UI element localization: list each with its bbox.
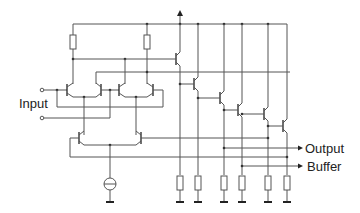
resistor-r1	[70, 35, 76, 49]
supply-rail	[73, 10, 287, 25]
input-stage	[40, 83, 163, 135]
input-terminal-1	[40, 88, 44, 92]
supply-arrow-icon	[177, 10, 183, 16]
output-stage	[172, 24, 287, 175]
input-terminal-2	[40, 116, 44, 120]
buffer-label: Buffer	[307, 159, 342, 174]
output-nets	[223, 137, 303, 169]
output-label: Output	[305, 141, 344, 156]
buffer-arrow-icon	[298, 164, 303, 169]
input-label: Input	[19, 96, 48, 111]
output-arrow-icon	[298, 146, 303, 151]
resistor-r2	[144, 35, 150, 49]
circuit-diagram: Input Output Buffer	[0, 0, 360, 213]
bottom-resistors	[176, 176, 291, 202]
